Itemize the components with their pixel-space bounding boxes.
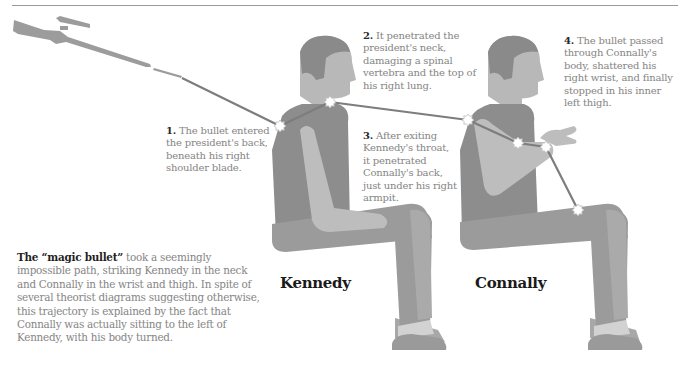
annotation-1-number: 1. — [166, 125, 176, 136]
annotation-1-text: The bullet entered the president's back,… — [166, 125, 269, 173]
summary-paragraph: The “magic bullet” took a seemingly impo… — [17, 251, 267, 345]
annotation-3: 3. After exiting Kennedy's throat, it pe… — [363, 130, 458, 204]
summary-lead: The “magic bullet” — [17, 251, 123, 263]
connally-label: Connally — [475, 274, 546, 292]
annotation-2: 2. It penetrated the president's neck, d… — [363, 30, 488, 92]
annotation-4: 4. The bullet passed through Connally's … — [564, 35, 678, 109]
annotation-1: 1. The bullet entered the president's ba… — [166, 125, 276, 175]
rifle-icon — [13, 16, 182, 78]
annotation-2-text: It penetrated the president's neck, dama… — [363, 30, 476, 91]
annotation-4-text: The bullet passed through Connally's bod… — [564, 35, 673, 108]
annotation-3-number: 3. — [363, 130, 373, 141]
kennedy-label: Kennedy — [280, 274, 351, 292]
annotation-2-number: 2. — [363, 30, 373, 41]
annotation-4-number: 4. — [564, 35, 574, 46]
annotation-3-text: After exiting Kennedy's throat, it penet… — [363, 130, 457, 203]
summary-body: took a seemingly impossible path, striki… — [17, 251, 260, 343]
